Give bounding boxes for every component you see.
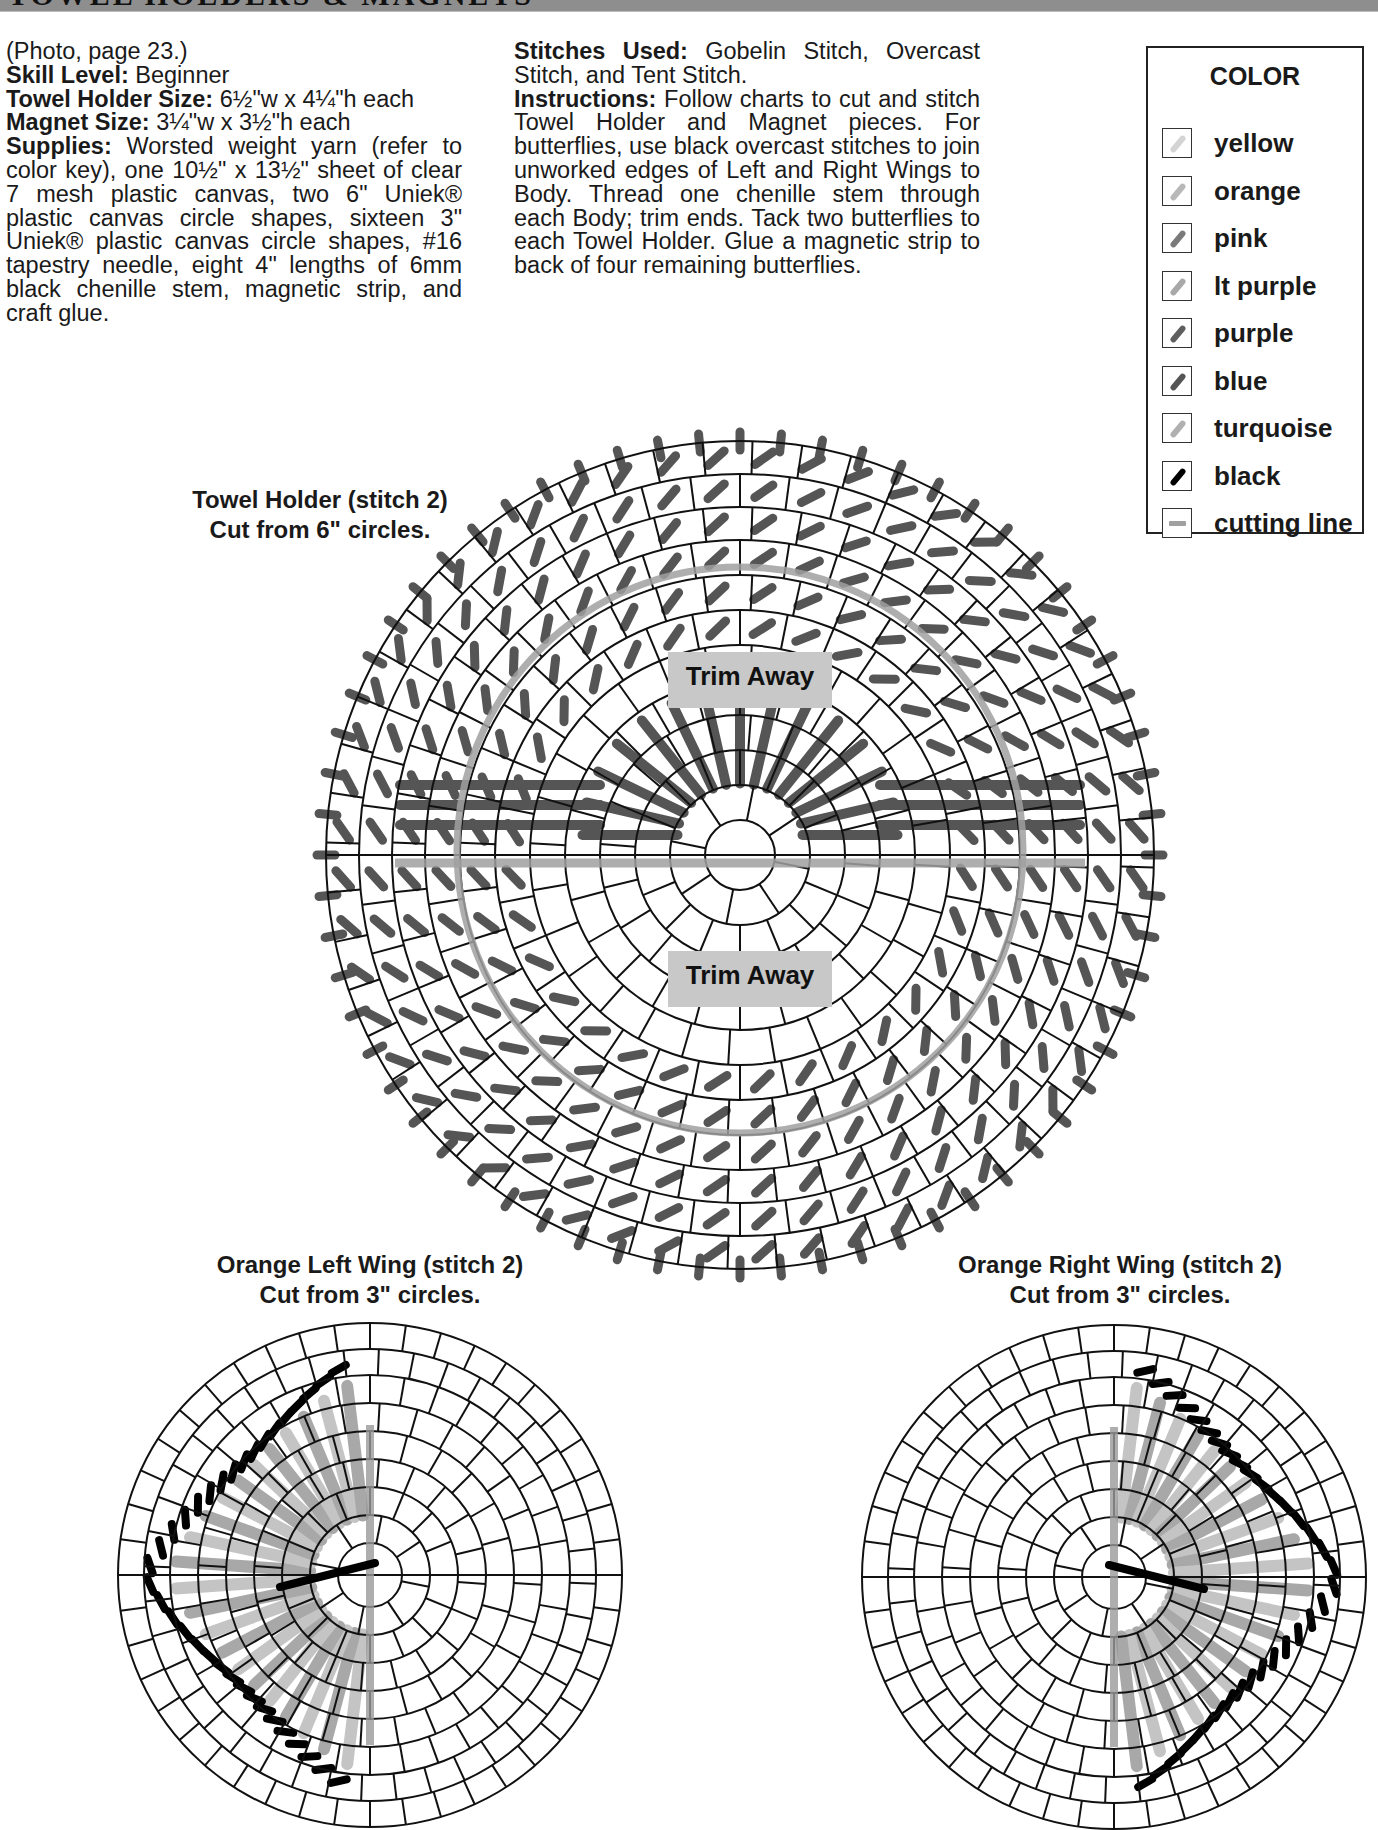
supplies: Supplies: Worsted weight yarn (refer to … xyxy=(6,135,462,325)
instructions-value: Follow charts to cut and stitch Towel Ho… xyxy=(514,86,980,279)
legend-label: lt purple xyxy=(1214,271,1317,301)
magnet-size-value: 3¼"w x 3½"h each xyxy=(150,109,351,135)
legend-label: cutting line xyxy=(1214,508,1353,538)
towel-holder-size-label: Towel Holder Size: xyxy=(6,86,213,112)
legend-label: purple xyxy=(1214,318,1293,348)
legend-item-blue: blue xyxy=(1162,366,1362,400)
diagonal-stitch-icon xyxy=(1162,271,1192,301)
right-wing-caption-title: Orange Right Wing (stitch 2) xyxy=(930,1250,1310,1280)
right-wing-chart xyxy=(840,1310,1378,1830)
diagonal-stitch-icon xyxy=(1162,176,1192,206)
magnet-size-label: Magnet Size: xyxy=(6,109,150,135)
skill-level-label: Skill Level: xyxy=(6,62,129,88)
legend-item-pink: pink xyxy=(1162,223,1362,257)
magnet-size: Magnet Size: 3¼"w x 3½"h each xyxy=(6,111,462,135)
legend-item-lt-purple: lt purple xyxy=(1162,271,1362,305)
trim-away-top-label: Trim Away xyxy=(668,652,832,708)
stitches-used: Stitches Used: Gobelin Stitch, Overcast … xyxy=(514,40,980,88)
color-key: COLOR yelloworangepinklt purplepurpleblu… xyxy=(1146,46,1364,534)
diagonal-stitch-icon xyxy=(1162,318,1192,348)
supplies-label: Supplies: xyxy=(6,133,112,159)
diagonal-stitch-icon xyxy=(1162,223,1192,253)
diagonal-stitch-icon xyxy=(1162,366,1192,396)
supplies-value: Worsted weight yarn (refer to color key)… xyxy=(6,133,462,326)
skill-level-value: Beginner xyxy=(129,62,230,88)
legend-label: pink xyxy=(1214,223,1267,253)
legend-item-yellow: yellow xyxy=(1162,128,1362,162)
legend-item-orange: orange xyxy=(1162,176,1362,210)
intro-column: (Photo, page 23.) Skill Level: Beginner … xyxy=(6,40,462,326)
header-bar: TOWEL HOLDERS & MAGNETS xyxy=(0,0,1378,12)
color-key-title: COLOR xyxy=(1148,62,1362,91)
legend-item-purple: purple xyxy=(1162,318,1362,352)
instructions: Instructions: Follow charts to cut and s… xyxy=(514,88,980,278)
legend-item-black: black xyxy=(1162,461,1362,495)
towel-holder-size: Towel Holder Size: 6½"w x 4¼"h each xyxy=(6,88,462,112)
photo-reference: (Photo, page 23.) xyxy=(6,40,462,64)
legend-item-cutting-line: cutting line xyxy=(1162,508,1362,542)
legend-label: yellow xyxy=(1214,128,1293,158)
stitches-used-label: Stitches Used: xyxy=(514,38,688,64)
legend-label: blue xyxy=(1214,366,1267,396)
towel-holder-chart xyxy=(310,430,1170,1290)
towel-holder-size-value: 6½"w x 4¼"h each xyxy=(213,86,414,112)
left-wing-caption: Orange Left Wing (stitch 2) Cut from 3" … xyxy=(185,1250,555,1310)
left-wing-chart xyxy=(100,1310,660,1830)
instructions-label: Instructions: xyxy=(514,86,656,112)
legend-label: orange xyxy=(1214,176,1301,206)
instructions-column: Stitches Used: Gobelin Stitch, Overcast … xyxy=(514,40,980,278)
legend-label: turquoise xyxy=(1214,413,1332,443)
diagonal-stitch-icon xyxy=(1162,128,1192,158)
right-wing-caption: Orange Right Wing (stitch 2) Cut from 3"… xyxy=(930,1250,1310,1310)
left-wing-caption-subtitle: Cut from 3" circles. xyxy=(185,1280,555,1310)
page-title: TOWEL HOLDERS & MAGNETS xyxy=(8,0,534,12)
trim-away-bottom-label: Trim Away xyxy=(668,951,832,1007)
legend-item-turquoise: turquoise xyxy=(1162,413,1362,447)
right-wing-caption-subtitle: Cut from 3" circles. xyxy=(930,1280,1310,1310)
left-wing-caption-title: Orange Left Wing (stitch 2) xyxy=(185,1250,555,1280)
legend-label: black xyxy=(1214,461,1281,491)
skill-level: Skill Level: Beginner xyxy=(6,64,462,88)
